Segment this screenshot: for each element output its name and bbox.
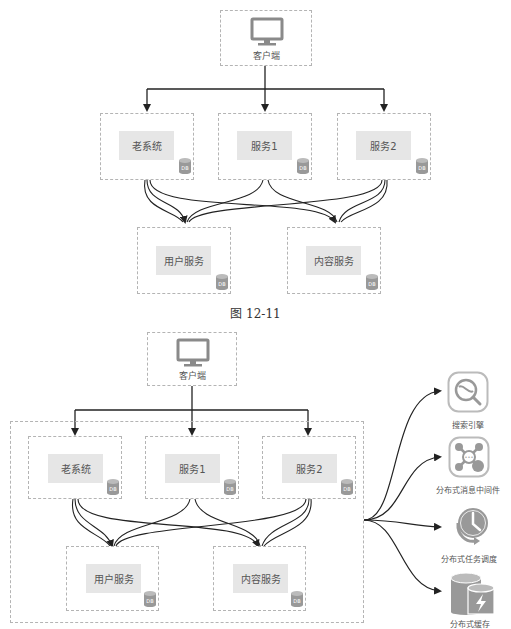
svg-text:DB: DB	[293, 598, 301, 604]
service-label: 老系统	[48, 454, 103, 483]
service-label: 内容服务	[233, 564, 288, 593]
svg-text:DB: DB	[181, 165, 189, 171]
svg-text:DB: DB	[109, 486, 117, 492]
monitor-icon	[176, 338, 210, 368]
database-icon: DB	[107, 479, 119, 495]
fig2-user-service: 用户服务 DB	[66, 546, 159, 611]
search-engine-icon	[447, 371, 489, 413]
fig1-user-service: 用户服务 DB	[137, 227, 231, 294]
figure-caption: 图 12-11	[0, 304, 511, 321]
task-scheduler-icon	[452, 505, 490, 547]
external-label: 分布式任务调度	[434, 553, 504, 564]
database-icon: DB	[179, 158, 191, 174]
service-label: 服务1	[165, 454, 220, 483]
database-icon: DB	[224, 479, 236, 495]
fig2-content-service: 内容服务 DB	[213, 546, 306, 611]
service-label: 用户服务	[86, 564, 141, 593]
svg-text:DB: DB	[299, 165, 307, 171]
fig2-service-1: 服务1 DB	[145, 436, 239, 499]
svg-text:DB: DB	[368, 281, 376, 287]
database-icon: DB	[366, 274, 378, 290]
fig1-client-box: 客户端	[220, 10, 312, 66]
fig1-service-1: 服务1 DB	[218, 113, 312, 180]
svg-text:DB: DB	[226, 486, 234, 492]
svg-text:DB: DB	[418, 165, 426, 171]
service-label: 老系统	[119, 131, 174, 160]
database-icon: DB	[144, 591, 156, 607]
service-label: 服务1	[237, 131, 292, 160]
client-label: 客户端	[221, 49, 311, 62]
external-label: 搜索引擎	[438, 419, 498, 430]
svg-text:DB: DB	[343, 486, 351, 492]
fig2-service-old-system: 老系统 DB	[28, 436, 122, 499]
database-icon: DB	[297, 158, 309, 174]
service-label: 用户服务	[156, 246, 211, 275]
svg-text:DB: DB	[146, 598, 154, 604]
svg-text:•••: •••	[465, 454, 474, 460]
svg-text:DB: DB	[218, 281, 226, 287]
database-icon: DB	[216, 274, 228, 290]
fig2-service-2: 服务2 DB	[262, 436, 356, 499]
client-label: 客户端	[148, 369, 236, 382]
database-icon: DB	[291, 591, 303, 607]
fig1-service-old-system: 老系统 DB	[100, 113, 194, 180]
message-middleware-icon: •••	[448, 436, 490, 478]
external-label: 分布式缓存	[440, 618, 500, 629]
fig1-service-2: 服务2 DB	[337, 113, 431, 180]
monitor-icon	[250, 17, 284, 47]
distributed-cache-icon	[450, 572, 496, 616]
service-label: 服务2	[282, 454, 337, 483]
database-icon: DB	[416, 158, 428, 174]
service-label: 内容服务	[306, 246, 361, 275]
service-label: 服务2	[356, 131, 411, 160]
external-label: 分布式消息中间件	[428, 484, 508, 495]
database-icon: DB	[341, 479, 353, 495]
fig2-client-box: 客户端	[147, 332, 237, 386]
fig1-content-service: 内容服务 DB	[287, 227, 381, 294]
